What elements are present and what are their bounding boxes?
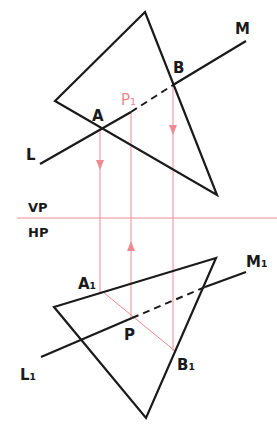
arrow-up-p-icon xyxy=(127,241,135,251)
label-vp: VP xyxy=(28,200,48,215)
line-l1-p xyxy=(41,318,132,357)
label-hp: HP xyxy=(28,225,48,240)
label-a1: A₁ xyxy=(78,275,96,293)
orthographic-projection-diagram: A B P₁ L M VP HP A₁ B₁ P L₁ M₁ xyxy=(0,0,277,446)
line-m1-visible xyxy=(205,272,246,287)
line-p-m1-hidden xyxy=(132,287,205,318)
construction-line-a1-b1 xyxy=(103,292,175,351)
label-b1: B₁ xyxy=(177,356,195,374)
label-p: P xyxy=(124,326,135,344)
label-l: L xyxy=(26,146,36,164)
label-b: B xyxy=(173,59,184,77)
arrow-down-b-icon xyxy=(169,125,177,135)
line-p1-b-hidden xyxy=(131,85,173,112)
label-p1: P₁ xyxy=(121,91,136,109)
label-a: A xyxy=(92,107,104,125)
label-m1: M₁ xyxy=(246,253,268,271)
arrow-down-a-icon xyxy=(96,160,104,170)
label-m: M xyxy=(235,20,250,38)
label-l1: L₁ xyxy=(20,366,36,384)
